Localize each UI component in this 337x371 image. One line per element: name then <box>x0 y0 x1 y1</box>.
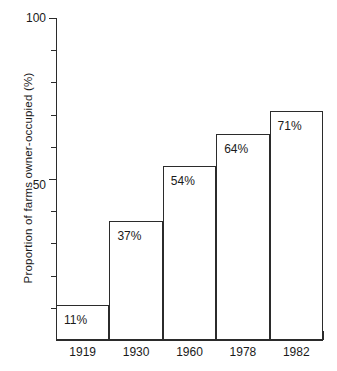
bar-value-label-1930: 37% <box>117 229 141 243</box>
y-tick-label-100: 100 <box>4 11 46 25</box>
x-divider-3 <box>216 331 217 340</box>
x-label-1960: 1960 <box>163 345 216 359</box>
x-divider-4 <box>270 331 271 340</box>
bar-1930: 37% <box>109 221 162 340</box>
x-axis-line <box>56 340 323 341</box>
x-axis-labels: 19191930196019781982 <box>56 345 323 367</box>
x-divider-1 <box>109 331 110 340</box>
y-axis-tick-labels: 100 50 <box>0 0 46 371</box>
x-label-1919: 1919 <box>56 345 109 359</box>
bar-value-label-1919: 11% <box>64 313 87 327</box>
x-label-1930: 1930 <box>109 345 162 359</box>
plot-area: 11%37%54%64%71% <box>56 18 323 340</box>
x-divider-5 <box>323 331 324 340</box>
x-divider-2 <box>163 331 164 340</box>
bar-value-label-1982: 71% <box>278 119 302 133</box>
bar-1919: 11% <box>56 305 109 340</box>
y-tick-label-50: 50 <box>4 178 46 192</box>
bar-value-label-1960: 54% <box>171 174 195 188</box>
bar-1978: 64% <box>216 134 269 340</box>
bar-1982: 71% <box>270 111 323 340</box>
bar-1960: 54% <box>163 166 216 340</box>
x-label-1982: 1982 <box>270 345 323 359</box>
bar-chart: Proportion of farms owner-occupied (%) 1… <box>0 0 337 371</box>
bar-value-label-1978: 64% <box>224 142 248 156</box>
x-label-1978: 1978 <box>216 345 269 359</box>
